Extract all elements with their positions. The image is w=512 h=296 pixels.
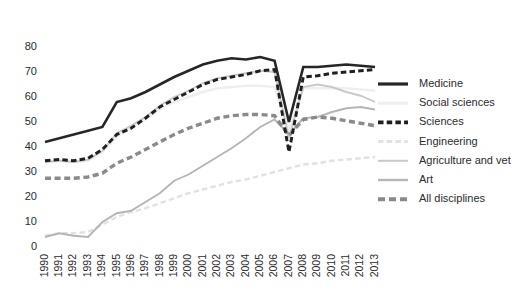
x-axis-tick-label: 2006 <box>267 254 279 278</box>
x-axis-tick-label: 1998 <box>153 254 165 278</box>
series-line <box>45 157 375 236</box>
x-axis-tick-label: 1995 <box>110 254 122 278</box>
y-axis-tick-label: 50 <box>25 115 37 127</box>
x-axis-tick-label: 2004 <box>239 254 251 278</box>
series-line <box>45 57 375 142</box>
x-axis-tick-label: 2000 <box>181 254 193 278</box>
legend-label: Art <box>419 173 433 185</box>
series-line <box>45 115 375 179</box>
x-axis-tick-label: 1990 <box>38 254 50 278</box>
series-line <box>45 107 375 237</box>
x-axis-tick-label: 2007 <box>282 254 294 278</box>
series-group <box>45 57 375 237</box>
x-axis-tick-label: 1991 <box>52 254 64 278</box>
x-axis-tick-label: 2012 <box>353 254 365 278</box>
y-axis-tick-label: 30 <box>25 165 37 177</box>
x-axis-tick-label: 1994 <box>95 254 107 278</box>
x-axis-tick-label: 1997 <box>138 254 150 278</box>
legend-label: Social sciences <box>419 96 495 108</box>
x-axis-tick-label: 1996 <box>124 254 136 278</box>
y-axis-tick-label: 0 <box>31 240 37 252</box>
x-axis-tick-label: 2005 <box>253 254 265 278</box>
legend-label: All disciplines <box>419 192 486 204</box>
x-axis-tick-label: 1999 <box>167 254 179 278</box>
x-axis-tick-label: 2011 <box>339 254 351 277</box>
chart-legend: MedicineSocial sciencesSciencesEngineeri… <box>378 77 511 204</box>
x-axis-tick-label: 1993 <box>81 254 93 278</box>
y-axis-tick-label: 70 <box>25 65 37 77</box>
legend-label: Agriculture and vet <box>419 154 511 166</box>
legend-label: Engineering <box>419 135 478 147</box>
y-axis-tick-label: 60 <box>25 90 37 102</box>
x-axis-tick-label: 2003 <box>224 254 236 278</box>
x-axis-tick-label: 2002 <box>210 254 222 278</box>
x-axis-tick-label: 2008 <box>296 254 308 278</box>
y-axis-tick-label: 10 <box>25 215 37 227</box>
y-axis-tick-label: 20 <box>25 190 37 202</box>
x-axis-tick-label: 2001 <box>196 254 208 278</box>
legend-label: Sciences <box>419 115 464 127</box>
y-axis-tick-group: 01020304050607080 <box>25 40 37 252</box>
chart-canvas: 01020304050607080 1990199119921993199419… <box>0 0 512 296</box>
x-axis-tick-label: 2010 <box>325 254 337 278</box>
y-axis-tick-label: 40 <box>25 140 37 152</box>
x-axis-tick-label: 1992 <box>66 254 78 278</box>
x-axis-tick-label: 2013 <box>368 254 380 278</box>
series-line <box>45 86 375 162</box>
y-axis-tick-label: 80 <box>25 40 37 52</box>
legend-label: Medicine <box>419 77 463 89</box>
line-chart: 01020304050607080 1990199119921993199419… <box>0 0 512 296</box>
x-axis-tick-group: 1990199119921993199419951996199719981999… <box>38 254 380 278</box>
x-axis-tick-label: 2009 <box>310 254 322 278</box>
